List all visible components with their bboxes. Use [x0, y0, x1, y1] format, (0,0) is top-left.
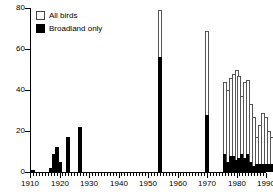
- x-tick-minor: [172, 173, 173, 176]
- x-tick-minor: [231, 173, 232, 176]
- x-tick-minor: [204, 173, 205, 176]
- x-tick-label: 1940: [104, 180, 134, 188]
- x-tick-minor: [157, 173, 158, 176]
- bar-segment-broadland-only: [31, 170, 35, 172]
- filled-square-swatch-icon: [36, 24, 45, 33]
- x-tick-major: [207, 173, 208, 178]
- x-tick-label: 1970: [192, 180, 222, 188]
- x-tick-minor: [245, 173, 246, 176]
- x-tick-minor: [95, 173, 96, 176]
- x-tick-minor: [145, 173, 146, 176]
- x-tick-minor: [210, 173, 211, 176]
- legend-item-all-birds: All birds: [36, 9, 102, 22]
- x-tick-minor: [257, 173, 258, 176]
- x-tick-minor: [260, 173, 261, 176]
- y-tick-label: 20: [0, 127, 25, 135]
- y-tick-label: 60: [0, 45, 25, 53]
- chart-legend: All birds Broadland only: [36, 9, 102, 35]
- x-tick-minor: [110, 173, 111, 176]
- bar-segment-broadland-only: [66, 137, 70, 172]
- x-tick-minor: [189, 173, 190, 176]
- x-tick-minor: [71, 173, 72, 176]
- x-tick-minor: [195, 173, 196, 176]
- x-tick-minor: [263, 173, 264, 176]
- x-tick-minor: [74, 173, 75, 176]
- x-tick-minor: [175, 173, 176, 176]
- x-tick-major: [237, 173, 238, 178]
- x-tick-minor: [228, 173, 229, 176]
- bar: [205, 8, 209, 172]
- bar: [158, 8, 162, 172]
- chart-container: 020406080 191019201930194019501960197019…: [0, 0, 273, 196]
- y-tick-label: 40: [0, 86, 25, 94]
- x-tick-minor: [183, 173, 184, 176]
- legend-item-broadland-only: Broadland only: [36, 22, 102, 35]
- x-tick-minor: [48, 173, 49, 176]
- x-tick-minor: [113, 173, 114, 176]
- x-tick-minor: [166, 173, 167, 176]
- legend-label-broadland-only: Broadland only: [49, 24, 102, 33]
- x-tick-minor: [124, 173, 125, 176]
- x-tick-minor: [33, 173, 34, 176]
- x-tick-minor: [151, 173, 152, 176]
- x-tick-minor: [254, 173, 255, 176]
- x-tick-minor: [133, 173, 134, 176]
- bar-segment-broadland-only: [270, 164, 273, 172]
- x-tick-minor: [98, 173, 99, 176]
- x-tick-minor: [57, 173, 58, 176]
- x-tick-minor: [136, 173, 137, 176]
- x-tick-minor: [163, 173, 164, 176]
- x-tick-label: 1910: [15, 180, 45, 188]
- x-tick-minor: [139, 173, 140, 176]
- x-tick-minor: [45, 173, 46, 176]
- x-tick-minor: [65, 173, 66, 176]
- x-tick-minor: [130, 173, 131, 176]
- x-tick-minor: [192, 173, 193, 176]
- x-tick-major: [148, 173, 149, 178]
- x-tick-minor: [222, 173, 223, 176]
- x-tick-minor: [107, 173, 108, 176]
- x-tick-minor: [225, 173, 226, 176]
- x-tick-minor: [242, 173, 243, 176]
- x-tick-minor: [62, 173, 63, 176]
- bar-segment-broadland-only: [205, 115, 209, 172]
- x-tick-major: [89, 173, 90, 178]
- open-square-swatch-icon: [36, 11, 45, 20]
- x-tick-minor: [39, 173, 40, 176]
- x-tick-minor: [80, 173, 81, 176]
- y-tick-label: 80: [0, 4, 25, 12]
- x-tick-minor: [51, 173, 52, 176]
- x-tick-major: [30, 173, 31, 178]
- x-tick-minor: [54, 173, 55, 176]
- x-tick-major: [178, 173, 179, 178]
- x-tick-minor: [127, 173, 128, 176]
- x-tick-minor: [116, 173, 117, 176]
- x-tick-minor: [101, 173, 102, 176]
- x-tick-label: 1920: [45, 180, 75, 188]
- x-tick-minor: [180, 173, 181, 176]
- x-tick-label: 1980: [222, 180, 252, 188]
- bar-segment-broadland-only: [158, 57, 162, 172]
- x-tick-minor: [239, 173, 240, 176]
- x-tick-minor: [216, 173, 217, 176]
- x-tick-minor: [248, 173, 249, 176]
- x-tick-minor: [201, 173, 202, 176]
- bar: [31, 8, 35, 172]
- x-tick-minor: [142, 173, 143, 176]
- x-tick-minor: [234, 173, 235, 176]
- x-tick-minor: [251, 173, 252, 176]
- legend-label-all-birds: All birds: [49, 11, 77, 20]
- x-tick-major: [60, 173, 61, 178]
- x-tick-minor: [219, 173, 220, 176]
- x-tick-minor: [213, 173, 214, 176]
- x-tick-label: 1960: [163, 180, 193, 188]
- bar: [270, 8, 273, 172]
- y-tick-label: 0: [0, 168, 25, 176]
- x-tick-minor: [36, 173, 37, 176]
- x-tick-label: 1930: [74, 180, 104, 188]
- x-tick-major: [266, 173, 267, 178]
- x-tick-minor: [198, 173, 199, 176]
- x-tick-minor: [160, 173, 161, 176]
- x-tick-minor: [86, 173, 87, 176]
- x-tick-minor: [104, 173, 105, 176]
